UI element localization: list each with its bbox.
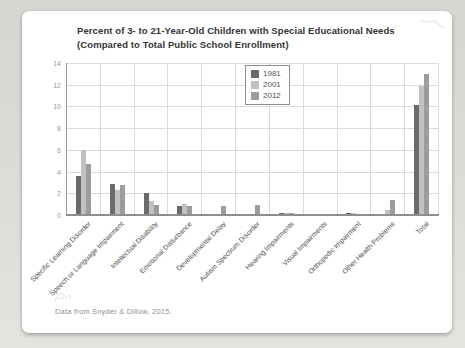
legend-item-2001: 2001 [251,80,281,89]
category-column [304,63,338,215]
y-axis-tick-label: 10 [39,103,61,110]
scan-smudge-artifact [418,16,446,34]
category-column [338,63,372,215]
legend: 198120012012 [245,65,290,105]
bar-2012 [86,164,91,215]
legend-swatch-icon [251,81,259,89]
category-column [405,63,439,215]
handwriting-artifact [52,289,74,305]
bar-2012 [424,74,429,215]
category-column [371,63,405,215]
plot-area: 02468101214Specific Learning DisorderSpe… [66,63,439,215]
bar-2012 [390,200,395,215]
chart-title: Percent of 3- to 21-Year-Old Children wi… [77,24,427,52]
y-axis-tick-label: 8 [39,125,61,132]
source-caption: Data from Snyder & Dillow, 2015. [55,307,172,316]
category-column [101,63,135,215]
legend-swatch-icon [251,92,259,100]
y-axis-tick-label: 6 [39,146,61,153]
legend-item-2012: 2012 [251,91,281,100]
bar-2012 [120,185,125,215]
category-column [168,63,202,215]
y-axis-tick-label: 12 [39,81,61,88]
y-axis-tick-label: 0 [39,212,61,219]
chart-card: Percent of 3- to 21-Year-Old Children wi… [22,11,452,333]
y-axis-tick-label: 14 [39,60,61,67]
chart-title-line2: (Compared to Total Public School Enrollm… [77,39,289,50]
page-background: { "page": { "caption": "Data from Snyder… [0,0,465,348]
legend-label: 2012 [263,91,281,100]
legend-label: 1981 [263,69,281,78]
chart-title-line1: Percent of 3- to 21-Year-Old Children wi… [77,25,395,36]
legend-label: 2001 [263,80,281,89]
category-column [202,63,236,215]
y-axis-tick-label: 2 [39,190,61,197]
x-axis-line [66,214,439,216]
legend-swatch-icon [251,70,259,78]
legend-item-1981: 1981 [251,69,281,78]
category-column [67,63,101,215]
category-column [135,63,169,215]
y-axis-tick-label: 4 [39,168,61,175]
